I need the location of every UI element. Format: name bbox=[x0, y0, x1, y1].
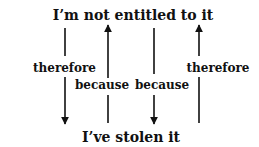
arrow-label-because-left: because bbox=[75, 79, 129, 91]
arrow-label-therefore-right: therefore bbox=[187, 62, 250, 74]
arrow-label-because-right: because bbox=[135, 79, 189, 91]
bottom-statement: I’ve stolen it bbox=[0, 130, 259, 144]
arrow-label-therefore-left: therefore bbox=[33, 62, 96, 74]
